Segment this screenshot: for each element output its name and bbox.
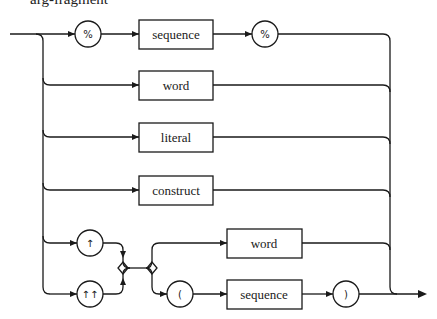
nonterminal-word-top-label: word	[163, 78, 190, 93]
arrowhead	[326, 291, 333, 297]
terminal-up-double-label: ↑↑	[82, 289, 99, 300]
fork-paren	[146, 268, 167, 294]
arrowhead	[160, 291, 167, 297]
branch-word	[43, 78, 139, 85]
row1-exit	[278, 34, 390, 41]
join-up-double	[103, 268, 130, 294]
exit-word-bottom	[302, 243, 390, 250]
branch-literal	[43, 130, 139, 137]
arrowhead	[132, 31, 139, 37]
exit-construct	[213, 190, 390, 197]
syntax-diagram: % sequence % word literal construct ↑ ↑↑…	[0, 0, 437, 319]
arrowhead	[245, 31, 252, 37]
arrowhead	[132, 187, 139, 193]
exit-literal	[213, 137, 390, 144]
arrowhead	[220, 240, 227, 246]
branch-construct	[43, 183, 139, 190]
left-branch-rail	[36, 34, 50, 294]
join-up-single	[103, 243, 130, 268]
fork-word	[146, 243, 227, 268]
terminal-paren-open-label: (	[178, 289, 182, 300]
terminal-paren-close-label: )	[344, 289, 348, 300]
terminal-percent-open-label: %	[83, 29, 93, 40]
terminal-percent-close-label: %	[260, 29, 270, 40]
nonterminal-construct-label: construct	[152, 183, 200, 198]
arrowhead	[70, 291, 77, 297]
arrowhead	[220, 291, 227, 297]
arrowhead	[120, 251, 126, 258]
nonterminal-literal-label: literal	[161, 130, 192, 145]
arrowhead	[120, 278, 126, 285]
arrowhead	[70, 240, 77, 246]
right-merge-rail	[390, 41, 397, 294]
nonterminal-sequence-bottom-label: sequence	[240, 287, 288, 302]
arrowhead	[68, 31, 75, 37]
arrowhead	[132, 82, 139, 88]
terminal-up-single-label: ↑	[86, 238, 94, 249]
nonterminal-word-bottom-label: word	[251, 236, 278, 251]
exit-word	[213, 85, 390, 92]
nonterminal-sequence-top-label: sequence	[152, 27, 200, 42]
arrowhead	[132, 134, 139, 140]
exit-arrowhead	[418, 290, 427, 298]
